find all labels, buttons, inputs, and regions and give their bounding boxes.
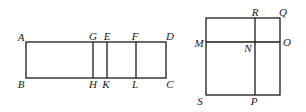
figure-canvas [0, 0, 306, 112]
label-E: E [104, 31, 111, 42]
rectangle-ABCD [26, 42, 166, 78]
label-G: G [89, 31, 97, 42]
label-F: F [132, 31, 139, 42]
label-B: B [18, 79, 25, 90]
label-L: L [132, 79, 138, 90]
label-C: C [166, 79, 173, 90]
label-S: S [197, 96, 203, 107]
label-Q: Q [279, 7, 287, 18]
square-QOPS [206, 18, 280, 95]
label-N: N [244, 43, 251, 54]
label-A: A [18, 32, 25, 43]
label-R: R [252, 7, 259, 18]
label-K: K [102, 79, 109, 90]
geometry-figure: A B G E F D H K L C R Q M N O S P [0, 0, 306, 112]
label-M: M [194, 38, 203, 49]
outline-ABCD [26, 42, 166, 78]
label-D: D [166, 31, 174, 42]
label-H: H [89, 79, 97, 90]
label-P: P [251, 96, 258, 107]
label-O: O [283, 37, 291, 48]
outline-QRSP [206, 18, 280, 95]
